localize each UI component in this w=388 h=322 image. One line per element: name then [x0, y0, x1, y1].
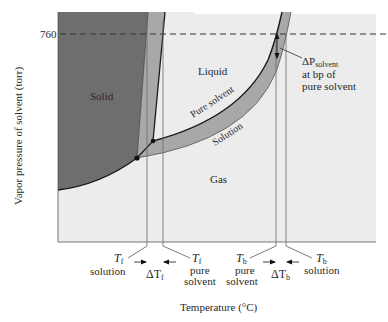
tf-pure-label2: solvent: [184, 275, 216, 287]
y-tick-760: 760: [40, 28, 57, 40]
delta-tf-label: ΔTf: [146, 267, 164, 282]
tf-solution-symbol: Tf: [114, 251, 124, 266]
y-axis-title: Vapor pressure of solvent (torr): [12, 67, 25, 205]
liquid-label: Liquid: [198, 65, 228, 77]
arrow-left-icon: [286, 260, 292, 265]
tb-pure-leader: [250, 246, 276, 258]
arrow-left-icon: [163, 260, 169, 265]
triple-point-solution: [134, 155, 139, 160]
tf-solution-leader: [128, 246, 147, 258]
tb-pure-label2: solvent: [226, 275, 258, 287]
tb-solution-leader: [286, 246, 312, 258]
phase-diagram: 760 Solid Liquid Gas Pure solvent Soluti…: [0, 0, 388, 322]
arrow-right-icon: [270, 260, 276, 265]
arrow-right-icon: [141, 260, 147, 265]
delta-p-line3: pure solvent: [302, 80, 356, 92]
delta-p-line2: at bp of: [302, 68, 336, 80]
tb-solution-label: solution: [304, 264, 340, 276]
solid-label: Solid: [90, 90, 114, 102]
delta-tb-label: ΔTb: [271, 267, 290, 282]
tf-pure-leader: [163, 246, 190, 258]
triple-point-pure: [151, 139, 156, 144]
tf-solution-label: solution: [90, 265, 126, 277]
gas-label: Gas: [210, 173, 227, 185]
x-axis-title: Temperature (°C): [180, 301, 258, 314]
